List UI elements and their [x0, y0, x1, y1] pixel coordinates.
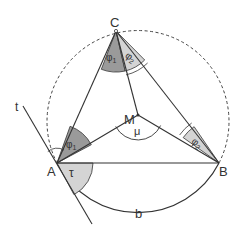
angle-tau-at-A — [57, 163, 93, 195]
label-tau: τ — [69, 166, 74, 180]
label-B: B — [219, 164, 228, 179]
label-b: b — [135, 206, 142, 221]
label-A: A — [47, 164, 56, 179]
label-t: t — [15, 100, 19, 114]
geometry-diagram: C M A B t b μ τ φ1 φ2 φ1 φ2 — [0, 0, 243, 238]
segment-MB — [138, 115, 219, 163]
label-C: C — [110, 15, 119, 30]
center-M-dot — [137, 114, 140, 117]
label-mu: μ — [134, 125, 140, 137]
